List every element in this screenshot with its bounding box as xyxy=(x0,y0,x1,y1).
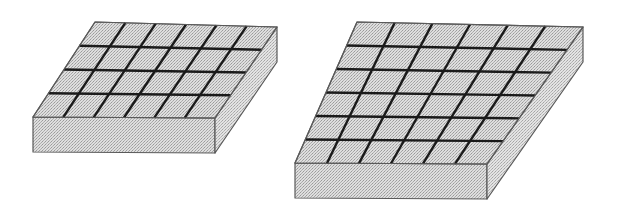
slab-figure-svg: Two rectangular slabs with scored grid t… xyxy=(0,0,619,220)
slab-right-row-line xyxy=(305,140,503,142)
slab-left-front-face xyxy=(33,117,215,153)
slab-right-front-face xyxy=(295,163,487,199)
figure-root: Two rectangular slabs with scored grid t… xyxy=(0,0,619,220)
